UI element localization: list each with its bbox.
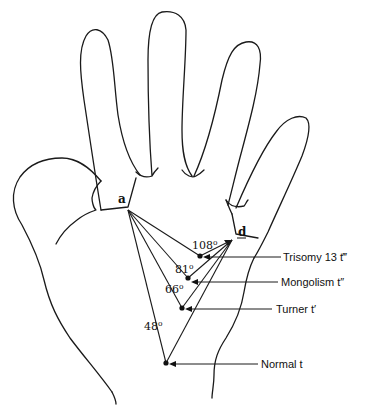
ray-a-normal xyxy=(128,210,166,363)
angle-label-turner: 66o xyxy=(165,282,184,296)
point-mongolism xyxy=(185,275,190,280)
middle-ring-web xyxy=(182,170,204,177)
pointer-turner xyxy=(185,306,272,312)
triradius-d-label: d xyxy=(238,225,247,239)
label-normal: Normal t xyxy=(261,358,303,370)
label-mongolism: Mongolism t″ xyxy=(281,276,344,288)
thumb-web xyxy=(56,181,101,244)
triradius-a-label: a xyxy=(118,192,126,206)
wrist-left xyxy=(112,392,116,404)
angle-label-mongolism: 81o xyxy=(175,262,194,276)
label-trisomy13: Trisomy 13 t‴ xyxy=(283,251,347,263)
middle-finger-outline xyxy=(136,12,192,177)
ray-a-trisomy13 xyxy=(128,210,200,256)
point-turner xyxy=(179,305,184,310)
ring-finger-outline xyxy=(194,42,260,205)
point-trisomy13 xyxy=(197,253,202,258)
palm-diagram: a d 108o 81o 66o 48o Trisomy 13 t‴ Mongo… xyxy=(0,0,366,415)
label-turner: Turner t′ xyxy=(276,303,316,315)
point-normal xyxy=(163,360,168,365)
angle-label-trisomy13: 108o xyxy=(192,238,218,252)
rays-from-a xyxy=(128,210,200,363)
pointer-normal xyxy=(169,361,258,367)
ulnar-palm-edge xyxy=(212,258,254,398)
angle-label-normal: 48o xyxy=(144,319,163,333)
index-finger-outline xyxy=(81,30,141,210)
thumb-outline xyxy=(13,158,112,392)
pointer-mongolism xyxy=(191,279,278,285)
